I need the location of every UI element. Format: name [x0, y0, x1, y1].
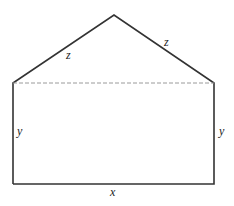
figure-outline	[13, 15, 214, 184]
label-roof-right: z	[163, 35, 169, 49]
label-wall-right: y	[218, 124, 225, 138]
label-base: x	[109, 185, 116, 199]
label-roof-left: z	[65, 48, 71, 62]
pentagon-figure: z z y y x	[0, 0, 234, 206]
diagram-canvas: z z y y x	[0, 0, 234, 206]
label-wall-left: y	[16, 124, 23, 138]
